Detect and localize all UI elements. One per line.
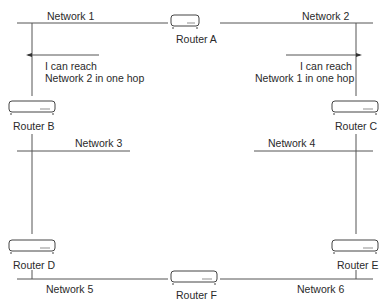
- right-annotation-line1: I can reach: [300, 60, 352, 72]
- network-1-label: Network 1: [47, 10, 94, 22]
- router-d-icon: [9, 240, 55, 254]
- network-diagram-lines: [0, 0, 387, 306]
- router-e-label: Router E: [337, 259, 378, 271]
- left-annotation-line1: I can reach: [45, 60, 97, 72]
- network-2-label: Network 2: [302, 10, 349, 22]
- router-f-label: Router F: [176, 289, 217, 301]
- network-5-label: Network 5: [46, 283, 93, 295]
- router-c-icon: [332, 101, 378, 115]
- network-6-label: Network 6: [297, 283, 344, 295]
- network-4-label: Network 4: [268, 137, 315, 149]
- router-a-icon: [171, 15, 199, 29]
- right-annotation-line2: Network 1 in one hop: [255, 72, 354, 84]
- router-d-label: Router D: [13, 259, 55, 271]
- left-annotation-line2: Network 2 in one hop: [45, 72, 144, 84]
- router-b-icon: [9, 101, 55, 115]
- router-e-icon: [332, 240, 378, 254]
- right-arrowhead-icon: [356, 53, 362, 57]
- network-3-label: Network 3: [75, 137, 122, 149]
- router-a-label: Router A: [176, 33, 217, 45]
- router-c-label: Router C: [335, 120, 377, 132]
- left-arrowhead-icon: [26, 53, 32, 57]
- router-f-icon: [171, 271, 217, 285]
- router-b-label: Router B: [13, 120, 54, 132]
